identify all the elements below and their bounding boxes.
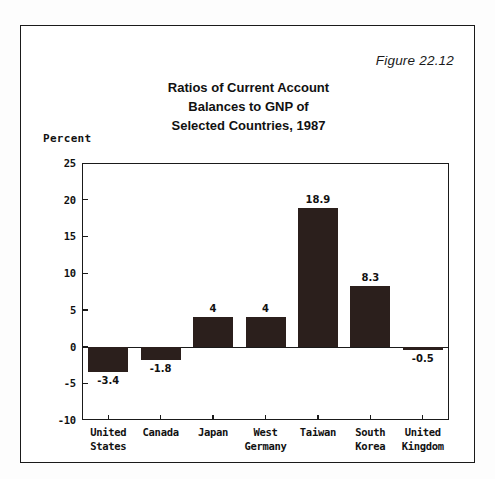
title-line-2: Balances to GNP of bbox=[21, 97, 476, 116]
bar-value-label: 4 bbox=[229, 303, 303, 314]
zero-baseline bbox=[82, 347, 449, 348]
x-axis-tick bbox=[265, 415, 266, 420]
bar-united-kingdom[interactable] bbox=[403, 347, 443, 351]
y-axis-tick bbox=[82, 346, 88, 347]
y-axis-tick-label: 15 bbox=[36, 230, 76, 242]
y-axis-tick-label: 20 bbox=[36, 194, 76, 206]
y-axis-tick bbox=[82, 309, 88, 310]
bar-japan[interactable] bbox=[193, 317, 233, 346]
y-axis-tick-label: 10 bbox=[36, 267, 76, 279]
figure-number-label: Figure 22.12 bbox=[376, 53, 454, 68]
bar-taiwan[interactable] bbox=[298, 208, 338, 347]
y-axis-tick-label: 25 bbox=[36, 157, 76, 169]
x-axis-tick bbox=[370, 415, 371, 420]
x-category-label-line: Kingdom bbox=[381, 439, 465, 453]
bar-west-germany[interactable] bbox=[246, 317, 286, 346]
bar-value-label: -1.8 bbox=[124, 363, 198, 374]
bar-value-label: -3.4 bbox=[71, 375, 145, 386]
bar-south-korea[interactable] bbox=[350, 286, 390, 347]
plot-area: 2520151050-5-10 -3.4-1.84418.98.3-0.5 bbox=[82, 163, 449, 420]
bar-value-label: 18.9 bbox=[281, 194, 355, 205]
x-axis-tick bbox=[160, 415, 161, 420]
y-axis-tick bbox=[82, 199, 88, 200]
x-axis-tick bbox=[317, 415, 318, 420]
figure-border: Figure 22.12 Ratios of Current Account B… bbox=[20, 25, 475, 463]
y-axis-tick bbox=[82, 236, 88, 237]
x-category-label-line: States bbox=[66, 439, 150, 453]
y-axis-title: Percent bbox=[43, 132, 91, 145]
bar-value-label: 8.3 bbox=[333, 272, 407, 283]
y-axis-tick-label: 0 bbox=[36, 341, 76, 353]
y-axis-tick bbox=[82, 273, 88, 274]
x-axis-tick bbox=[108, 415, 109, 420]
y-axis-tick-label: 5 bbox=[36, 304, 76, 316]
title-line-1: Ratios of Current Account bbox=[21, 78, 476, 97]
x-category-label-line: United bbox=[381, 425, 465, 439]
plot-top-rule bbox=[82, 163, 449, 164]
bar-united-states[interactable] bbox=[88, 347, 128, 372]
x-category-label-united-kingdom: UnitedKingdom bbox=[381, 425, 465, 453]
x-category-label-line: Germany bbox=[224, 439, 308, 453]
figure-page: Figure 22.12 Ratios of Current Account B… bbox=[0, 0, 495, 479]
y-axis-tick-label: -5 bbox=[36, 377, 76, 389]
x-axis-tick bbox=[212, 415, 213, 420]
plot-right-rule bbox=[448, 163, 449, 420]
bar-value-label: -0.5 bbox=[386, 353, 460, 364]
chart-title: Ratios of Current Account Balances to GN… bbox=[21, 78, 476, 135]
x-axis-tick bbox=[422, 415, 423, 420]
bar-canada[interactable] bbox=[141, 347, 181, 360]
